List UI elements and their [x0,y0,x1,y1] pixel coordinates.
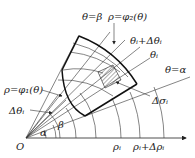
label-theta-i: θᵢ [150,49,158,60]
label-theta-beta: θ=β [82,11,102,22]
label-theta-i-plus: θᵢ+Δθᵢ [130,35,162,46]
label-delta-theta: Δθᵢ [8,105,24,116]
label-rho-i-plus: ρᵢ+Δρᵢ [132,141,164,152]
label-rho-i: ρᵢ [112,141,121,152]
label-theta-alpha: θ=α [165,64,186,75]
concentric-arcs [53,43,164,138]
polar-region-diagram: θ=β ρ=φ₂(θ) θᵢ+Δθᵢ θᵢ θ=α ρ=φ₁(θ) Δθᵢ Δσ… [0,0,195,158]
label-rho-phi1: ρ=φ₁(θ) [3,84,43,95]
boundary-theta-alpha [85,84,137,116]
label-beta: β [57,119,64,130]
hatched-cell [98,65,121,88]
label-delta-sigma: Δσᵢ [151,95,168,106]
label-origin: O [16,141,24,152]
label-rho-phi2: ρ=φ₂(θ) [107,11,147,22]
label-alpha: α [40,127,47,138]
boundary-rho-phi1 [62,70,85,116]
